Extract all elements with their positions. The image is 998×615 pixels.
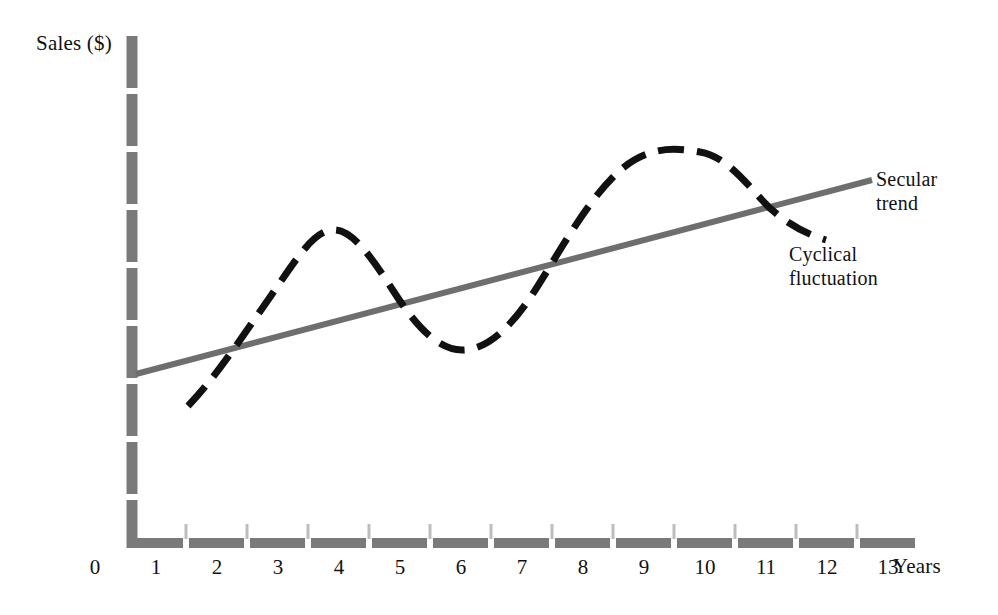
chart-plot-area (0, 0, 998, 615)
x-tick-label: 3 (273, 557, 284, 578)
x-tick-label: 9 (639, 557, 650, 578)
x-tick-label: 2 (212, 557, 223, 578)
secular-trend-line (136, 180, 872, 374)
x-axis-ticks (186, 524, 857, 539)
chart-figure: Sales ($) Years 0 1 2 3 4 5 6 7 8 9 10 1… (0, 0, 998, 615)
x-tick-label: 6 (456, 557, 467, 578)
cyclical-fluctuation-annotation: Cyclical fluctuation (789, 243, 878, 290)
x-tick-label: 0 (90, 557, 101, 578)
secular-trend-annotation: Secular trend (876, 168, 937, 215)
x-tick-label: 8 (578, 557, 589, 578)
x-tick-label: 10 (695, 557, 716, 578)
x-tick-label: 7 (517, 557, 528, 578)
x-tick-label: 11 (756, 557, 776, 578)
y-axis-title: Sales ($) (36, 33, 112, 54)
x-tick-label: 4 (334, 557, 345, 578)
x-axis-title: Years (893, 556, 941, 577)
x-tick-label: 12 (817, 557, 838, 578)
x-tick-label: 13 (878, 557, 899, 578)
x-tick-label: 1 (151, 557, 162, 578)
x-tick-label: 5 (395, 557, 406, 578)
